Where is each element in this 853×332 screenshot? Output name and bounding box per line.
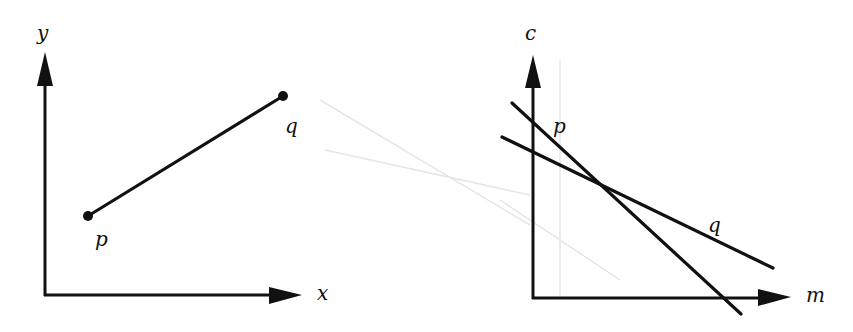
- m-axis-label: m: [806, 283, 825, 307]
- line-p: [512, 103, 741, 314]
- x-axis-arrowhead-icon: [269, 287, 302, 304]
- line-p-label: p: [553, 114, 566, 138]
- x-axis: [44, 287, 302, 304]
- y-axis-label: y: [36, 21, 49, 45]
- data-space-diagram: y x p q: [36, 21, 328, 305]
- point-p-label: p: [95, 227, 108, 251]
- x-axis-label: x: [317, 281, 328, 305]
- m-axis: [532, 289, 791, 306]
- segment-p-q: [88, 96, 283, 216]
- y-axis: [37, 52, 53, 296]
- point-q: [278, 91, 288, 101]
- line-q: [502, 137, 773, 268]
- hough-transform-figure: y x p q c m p q: [0, 0, 853, 332]
- y-axis-arrowhead-icon: [37, 52, 53, 86]
- c-axis-label: c: [525, 21, 536, 45]
- parameter-space-diagram: c m p q: [502, 21, 825, 314]
- point-p: [83, 211, 93, 221]
- line-q-label: q: [708, 213, 721, 237]
- point-q-label: q: [285, 114, 298, 138]
- background-bleed: [320, 60, 620, 298]
- m-axis-arrowhead-icon: [758, 289, 791, 306]
- c-axis-arrowhead-icon: [525, 55, 541, 88]
- c-axis: [525, 55, 541, 299]
